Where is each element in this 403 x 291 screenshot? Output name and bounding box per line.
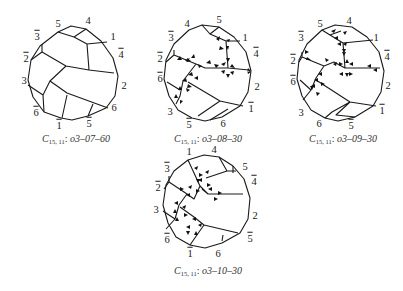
vertex-label-bar: 3 [168, 33, 173, 44]
vertex-label: 1 [186, 147, 191, 158]
vertex-label: 3 [153, 205, 158, 216]
vertex-label-bar: 4 [384, 52, 389, 63]
vertex-label: 5 [216, 15, 221, 26]
vertex-label-bar: 1 [248, 104, 253, 115]
vertex-label-bar: 1 [379, 106, 384, 117]
panel-caption: C15, 11: o3–08–30 [174, 133, 242, 145]
polyhedron-graph-2 [130, 0, 270, 150]
vertex-label: 5 [242, 162, 247, 173]
panel-caption: C15, 11: o3–09–30 [309, 133, 377, 145]
vertex-label: 3 [298, 108, 303, 119]
vertex-label: 4 [211, 145, 216, 156]
panel-caption: C15, 11: o3–10–30 [174, 265, 242, 277]
vertex-label-bar: 1 [56, 121, 61, 132]
vertex-label: 2 [385, 81, 390, 92]
vertex-label-bar: 2 [23, 54, 28, 65]
polyhedron-graph-3 [263, 0, 403, 150]
vertex-label-bar: 4 [251, 177, 256, 188]
vertex-label: 2 [252, 211, 257, 222]
vertex-label: 6 [215, 249, 220, 260]
vertex-label: 1 [373, 33, 378, 44]
arrow-markers [173, 166, 222, 235]
vertex-label: 5 [317, 19, 322, 30]
vertex-label: 4 [85, 16, 90, 27]
vertex-label-bar: 5 [86, 119, 91, 130]
vertex-label-bar: 4 [253, 49, 258, 60]
vertex-label: 3 [21, 76, 26, 87]
vertex-label-bar: 4 [118, 50, 123, 61]
vertex-label: 2 [121, 81, 126, 92]
vertex-label: 6 [111, 103, 116, 114]
vertex-label-bar: 6 [33, 108, 38, 119]
vertex-label-bar: 2 [157, 54, 162, 65]
vertex-label-bar: 6 [290, 77, 295, 88]
vertex-label-bar: 6 [164, 235, 169, 246]
diagram-panel-4: 1 4 5 3 4 2 3 2 6 5 1 6 C15, 11: o3–10–3… [130, 145, 270, 291]
vertex-label: 1 [110, 32, 115, 43]
vertex-label-bar: 3 [34, 32, 39, 43]
vertex-label-bar: 2 [155, 183, 160, 194]
vertex-label: 6 [220, 119, 225, 130]
arrow-markers [174, 36, 251, 104]
vertex-label-bar: 6 [157, 74, 162, 85]
vertex-label: 2 [254, 82, 259, 93]
diagram-panel-1: 5 4 1 3 4 2 2 3 6 6 1 5 C15, 11: o3–07–6… [0, 0, 134, 150]
vertex-label-bar: 3 [298, 33, 303, 44]
panel-caption: C15, 11: o3–07–60 [42, 133, 110, 145]
vertex-label: 5 [55, 19, 60, 30]
vertex-label: 6 [316, 119, 321, 130]
vertex-label-bar: 3 [164, 164, 169, 175]
vertex-label-bar: 5 [348, 121, 353, 132]
vertex-label: 1 [242, 33, 247, 44]
vertex-label-bar: 2 [290, 56, 295, 67]
vertex-label: 3 [167, 107, 172, 118]
diagram-panel-2: 4 5 1 3 4 2 6 2 3 1 5 6 C15, 11: o3–08–3… [130, 0, 270, 150]
vertex-label-bar: 5 [247, 234, 252, 245]
vertex-label: 4 [184, 19, 189, 30]
vertex-label-bar: 5 [186, 120, 191, 131]
vertex-label: 4 [346, 16, 351, 27]
diagram-panel-3: 5 4 1 3 4 2 6 2 3 1 6 5 C15, 11: o3–09–3… [263, 0, 403, 150]
polyhedron-graph-1 [0, 0, 134, 150]
vertex-label-bar: 1 [187, 249, 192, 260]
